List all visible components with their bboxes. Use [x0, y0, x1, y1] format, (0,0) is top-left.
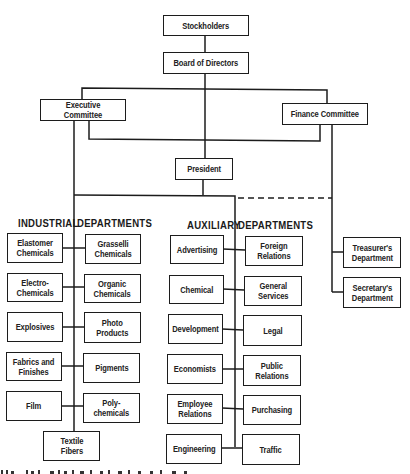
node-label: Poly- chemicals	[94, 398, 130, 418]
dept-development: Development	[168, 314, 223, 344]
node-label: Traffic	[260, 445, 282, 455]
dept-pigments: Pigments	[83, 353, 140, 383]
node-label: Finance Committee	[291, 109, 359, 119]
node-executive-committee: Executive Committee	[40, 99, 126, 121]
node-label: Legal	[263, 326, 282, 336]
node-label: Grasselli Chemicals	[94, 239, 131, 259]
dept-foreign-relations: Foreign Relations	[245, 236, 303, 266]
node-label: Engineering	[173, 444, 216, 454]
dept-chemical: Chemical	[169, 275, 224, 304]
node-label: Stockholders	[183, 21, 230, 31]
node-label: Film	[26, 401, 41, 411]
node-label: Chemical	[180, 285, 213, 295]
node-label: Photo Products	[96, 318, 128, 338]
node-label: Electro- Chemicals	[16, 278, 53, 298]
node-label: Secretary's Department	[351, 283, 392, 303]
dept-engineering: Engineering	[166, 434, 222, 464]
dept-secretarys: Secretary's Department	[343, 277, 401, 308]
dept-general-services: General Services	[244, 276, 302, 306]
dept-organic-chemicals: Organic Chemicals	[84, 274, 141, 303]
node-label: Advertising	[177, 245, 218, 255]
dept-photo-products: Photo Products	[84, 312, 141, 343]
node-label: Development	[172, 324, 219, 334]
node-label: Employee Relations	[177, 399, 212, 419]
node-label: Board of Directors	[174, 58, 239, 68]
truncated-caption	[0, 468, 300, 474]
node-label: Elastomer Chemicals	[16, 238, 53, 258]
node-label: Fabrics and Finishes	[13, 357, 54, 377]
node-label: President	[187, 164, 221, 174]
auxiliary-header-left: AUXILIARY	[187, 220, 241, 231]
dept-explosives: Explosives	[7, 312, 63, 342]
dept-elastomer-chemicals: Elastomer Chemicals	[7, 233, 63, 263]
node-label: Textile Fibers	[60, 436, 83, 456]
node-president: President	[175, 158, 233, 180]
industrial-header-right: DEPARTMENTS	[77, 218, 152, 229]
node-stockholders: Stockholders	[163, 15, 249, 36]
node-label: Explosives	[16, 322, 55, 332]
node-label: Executive Committee	[46, 100, 120, 120]
dept-advertising: Advertising	[170, 235, 224, 264]
dept-film: Film	[6, 391, 62, 421]
dept-purchasing: Purchasing	[243, 395, 301, 425]
node-board-of-directors: Board of Directors	[163, 52, 249, 74]
dept-textile-fibers: Textile Fibers	[43, 431, 100, 461]
node-finance-committee: Finance Committee	[282, 103, 368, 125]
dept-treasurers: Treasurer's Department	[343, 237, 401, 268]
dept-grasselli-chemicals: Grasselli Chemicals	[85, 234, 141, 264]
industrial-header-left: INDUSTRIAL	[18, 218, 79, 229]
node-label: Organic Chemicals	[94, 279, 131, 299]
auxiliary-header-right: DEPARTMENTS	[238, 220, 313, 231]
node-label: Public Relations	[255, 361, 288, 381]
node-label: Treasurer's Department	[351, 243, 392, 263]
dept-traffic: Traffic	[242, 434, 300, 465]
node-label: General Services	[258, 281, 288, 301]
dept-public-relations: Public Relations	[243, 355, 301, 386]
dept-employee-relations: Employee Relations	[167, 394, 223, 424]
node-label: Purchasing	[252, 405, 292, 415]
dept-economists: Economists	[167, 354, 223, 384]
node-label: Foreign Relations	[257, 241, 290, 261]
dept-legal: Legal	[243, 315, 302, 346]
node-label: Pigments	[95, 363, 128, 373]
dept-electro-chemicals: Electro- Chemicals	[7, 273, 63, 302]
dept-fabrics-and-finishes: Fabrics and Finishes	[6, 352, 62, 381]
dept-polychemicals: Poly- chemicals	[83, 393, 140, 423]
node-label: Economists	[174, 364, 216, 374]
